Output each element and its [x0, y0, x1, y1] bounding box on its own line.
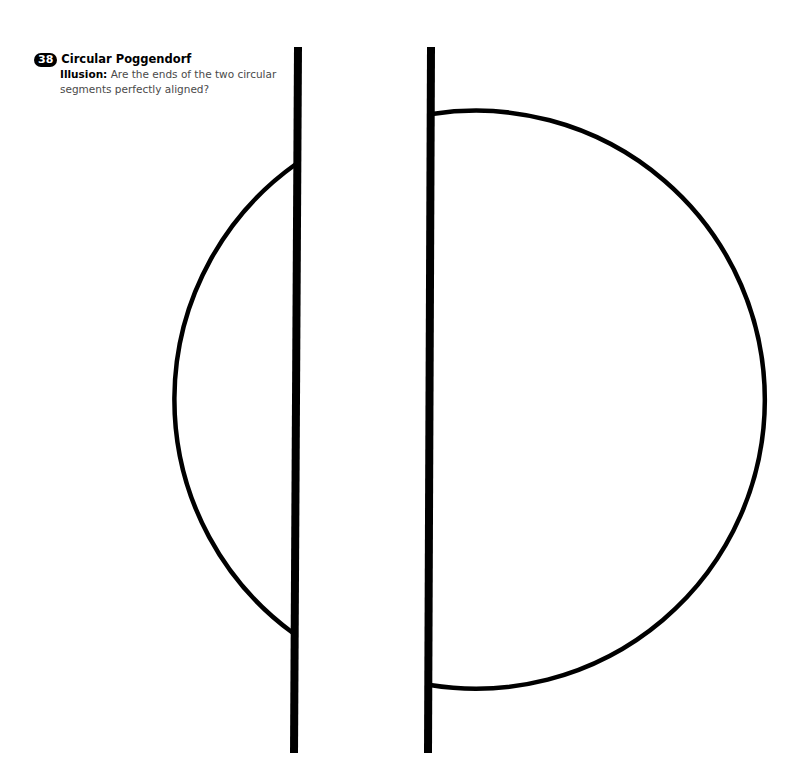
left-vertical-bar — [294, 47, 298, 753]
right-vertical-bar — [428, 47, 431, 753]
right-circular-segment — [430, 111, 765, 689]
left-circular-segment — [174, 164, 296, 633]
poggendorf-figure — [0, 0, 805, 771]
